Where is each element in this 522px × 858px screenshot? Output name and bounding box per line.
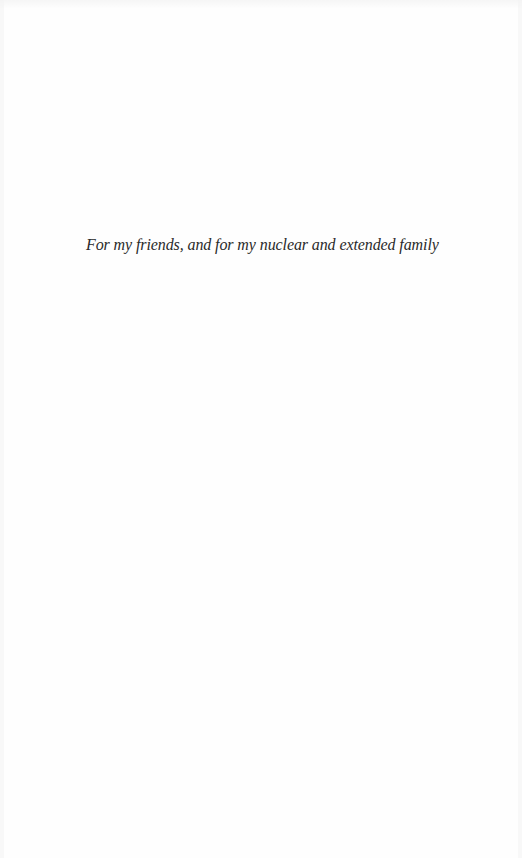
page-top-edge-shading — [0, 0, 522, 8]
page-left-edge-shading — [0, 0, 4, 858]
page-right-edge-shading — [518, 0, 522, 858]
dedication-text: For my friends, and for my nuclear and e… — [86, 235, 439, 255]
book-page: For my friends, and for my nuclear and e… — [0, 0, 522, 858]
